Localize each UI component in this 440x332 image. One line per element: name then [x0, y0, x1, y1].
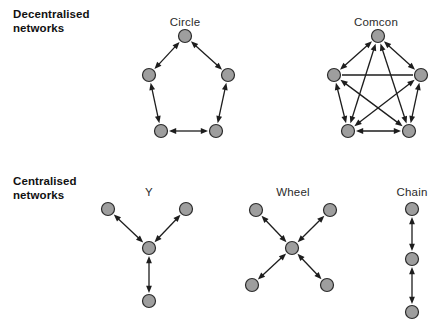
arrowhead-m-to-b — [409, 297, 415, 304]
arrowhead-n5-to-n4 — [155, 116, 161, 124]
diagram-title-y: Y — [145, 186, 153, 198]
diagram-wheel — [246, 204, 337, 292]
node-comcon-n2 — [415, 69, 428, 82]
node-comcon-n1 — [372, 30, 385, 43]
diagram-title-circle: Circle — [170, 16, 201, 28]
arrowhead-n1-to-n4 — [350, 116, 356, 124]
edge-n1-n4 — [352, 50, 373, 118]
diagram-circle-edges — [149, 41, 227, 134]
node-y-ul — [102, 203, 115, 216]
arrowhead-n4-to-n3 — [394, 128, 401, 134]
edge-c-ul — [266, 220, 282, 237]
edge-n2-n3 — [412, 89, 418, 117]
arrowhead-n2-to-n3 — [216, 116, 222, 124]
node-circle-n5 — [143, 69, 156, 82]
node-chain-t — [406, 203, 419, 216]
edge-n4-n5 — [337, 89, 344, 117]
diagram-title-wheel: Wheel — [276, 186, 310, 198]
arrowhead-n5-to-n3 — [395, 120, 403, 127]
edge-n2-n4 — [359, 84, 409, 122]
arrowhead-n3-to-n5 — [340, 80, 348, 87]
arrowhead-m-to-t — [409, 217, 415, 224]
arrowhead-n3-to-n2 — [222, 83, 228, 91]
edge-c-bl — [263, 258, 282, 275]
arrowhead-b-to-c — [146, 256, 152, 263]
arrowhead-n2-to-n3 — [409, 116, 415, 124]
node-wheel-ur — [324, 204, 337, 217]
node-comcon-n3 — [403, 125, 416, 138]
node-chain-b — [406, 306, 419, 319]
arrowhead-n4-to-n1 — [371, 44, 377, 52]
diagram-title-chain: Chain — [396, 186, 427, 198]
edge-c-br — [302, 258, 317, 274]
diagram-comcon — [328, 30, 428, 138]
node-wheel-bl — [246, 279, 259, 292]
node-y-ur — [180, 203, 193, 216]
node-y-c — [143, 242, 156, 255]
node-wheel-br — [321, 279, 334, 292]
arrowhead-n3-to-n4 — [169, 128, 176, 134]
edge-n1-n2 — [196, 46, 218, 66]
diagram-title-comcon: Comcon — [354, 16, 398, 28]
node-wheel-ul — [250, 204, 263, 217]
node-circle-n4 — [155, 125, 168, 138]
edge-c-ur — [302, 220, 320, 238]
node-comcon-n4 — [342, 125, 355, 138]
edge-n5-n1 — [345, 46, 367, 66]
edge-c-ul — [118, 219, 138, 238]
node-circle-n3 — [210, 125, 223, 138]
arrowhead-n5-to-n4 — [342, 116, 348, 124]
edge-c-ur — [159, 219, 176, 237]
edge-n1-n3 — [382, 50, 404, 118]
arrowhead-n3-to-n2 — [415, 83, 421, 91]
edge-n2-n3 — [219, 89, 225, 117]
arrowhead-t-to-m — [409, 244, 415, 251]
diagram-comcon-edges — [335, 41, 421, 134]
edge-n1-n2 — [389, 46, 411, 66]
node-circle-n1 — [179, 30, 192, 43]
diagram-chain — [406, 203, 419, 319]
edge-n3-n5 — [346, 84, 398, 123]
network-structures-figure: Decentralised networks Centralised netwo… — [0, 0, 440, 332]
diagram-y — [102, 203, 193, 308]
arrowhead-n4-to-n5 — [335, 83, 341, 91]
arrowhead-c-to-b — [146, 286, 152, 293]
node-circle-n2 — [222, 69, 235, 82]
network-diagrams-canvas — [0, 0, 440, 332]
edge-n5-n1 — [159, 47, 175, 65]
node-y-b — [143, 295, 156, 308]
node-chain-m — [406, 253, 419, 266]
arrowhead-n4-to-n5 — [149, 83, 155, 91]
edge-n4-n5 — [152, 89, 158, 117]
diagram-circle — [143, 30, 235, 138]
node-comcon-n5 — [328, 69, 341, 82]
arrowhead-n3-to-n4 — [356, 128, 363, 134]
arrowhead-n4-to-n3 — [201, 128, 208, 134]
arrowhead-n1-to-n3 — [402, 116, 408, 124]
arrowhead-b-to-m — [409, 267, 415, 274]
node-wheel-c — [286, 242, 299, 255]
diagram-circle-nodes — [143, 30, 235, 138]
arrowhead-n3-to-n1 — [380, 44, 386, 52]
